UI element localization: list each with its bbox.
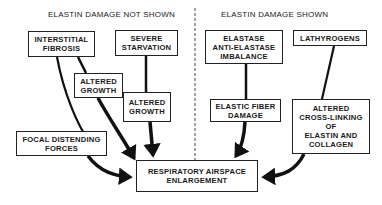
node-severe-starvation: SEVERE STARVATION [115, 30, 178, 56]
node-elastase-anti-elastase-imbalance: ELASTASE ANTI-ELASTASE IMBALANCE [205, 30, 283, 64]
node-label: LATHYROGENS [300, 34, 360, 43]
node-lathyrogens: LATHYROGENS [293, 30, 367, 46]
edge-lathyrogens-to-crosslinking [322, 46, 334, 99]
node-focal-distending-forces: FOCAL DISTENDING FORCES [16, 131, 107, 156]
node-altered-cross-linking: ALTERED CROSS-LINKING OF ELASTIN AND COL… [292, 99, 370, 154]
header-elastin-damage-not-shown: ELASTIN DAMAGE NOT SHOWN [48, 10, 175, 19]
node-label: SEVERE STARVATION [122, 34, 172, 52]
node-label: RESPIRATORY AIRSPACE ENLARGEMENT [148, 167, 246, 185]
edge-crosslinking-to-enlargement [264, 154, 304, 177]
node-elastic-fiber-damage: ELASTIC FIBER DAMAGE [210, 99, 281, 122]
node-label: ALTERED GROWTH [80, 77, 117, 95]
node-interstitial-fibrosis: INTERSTITIAL FIBROSIS [28, 31, 95, 57]
node-label: FOCAL DISTENDING FORCES [22, 135, 100, 153]
edge-fiber-to-enlargement [236, 122, 245, 156]
node-label: INTERSTITIAL FIBROSIS [35, 35, 89, 53]
node-respiratory-airspace-enlargement: RESPIRATORY AIRSPACE ENLARGEMENT [136, 160, 258, 192]
edge-fibrosis-to-enlargement-lower [88, 156, 130, 177]
node-label: ELASTASE ANTI-ELASTASE IMBALANCE [213, 34, 276, 61]
node-label: ELASTIC FIBER DAMAGE [216, 102, 276, 120]
edge-fibrosis-to-growth [78, 57, 86, 73]
header-elastin-damage-shown: ELASTIN DAMAGE SHOWN [221, 10, 328, 19]
node-label: ALTERED CROSS-LINKING OF ELASTIN AND COL… [299, 104, 362, 149]
node-label: ALTERED GROWTH [129, 98, 166, 116]
edge-growth2-to-enlargement [150, 122, 153, 155]
node-altered-growth-2: ALTERED GROWTH [123, 92, 171, 122]
node-altered-growth-1: ALTERED GROWTH [74, 73, 123, 98]
